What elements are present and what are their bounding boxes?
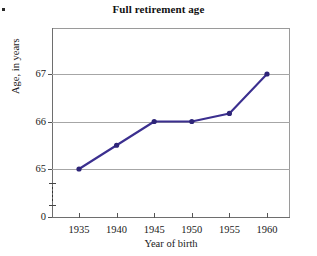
chart-figure: Full retirement age 0656667 193519401945…: [0, 0, 317, 256]
x-tick-label-1945: 1945: [144, 225, 165, 236]
data-series-svg: [52, 28, 290, 218]
chart-title: Full retirement age: [0, 3, 317, 15]
plot-area: 0656667 193519401945195019551960: [52, 28, 290, 218]
data-point-1955: [227, 111, 232, 116]
y-axis-title: Age, in years: [10, 78, 21, 94]
data-point-1960: [264, 71, 269, 76]
data-point-1935: [76, 166, 81, 171]
x-tick-label-1960: 1960: [257, 225, 278, 236]
series-line-full-retirement-age: [79, 74, 267, 169]
data-point-1945: [152, 119, 157, 124]
y-tick-label-66: 66: [36, 116, 47, 127]
x-tick-label-1950: 1950: [181, 225, 202, 236]
y-tick-label-67: 67: [36, 69, 47, 80]
x-tick-label-1935: 1935: [69, 225, 90, 236]
x-tick-label-1955: 1955: [219, 225, 240, 236]
data-point-1940: [114, 143, 119, 148]
x-axis-title: Year of birth: [52, 238, 290, 249]
y-tick-label-65: 65: [36, 164, 47, 175]
data-point-1950: [189, 119, 194, 124]
x-tick-label-1940: 1940: [106, 225, 127, 236]
y-tick-label-0: 0: [41, 212, 46, 223]
